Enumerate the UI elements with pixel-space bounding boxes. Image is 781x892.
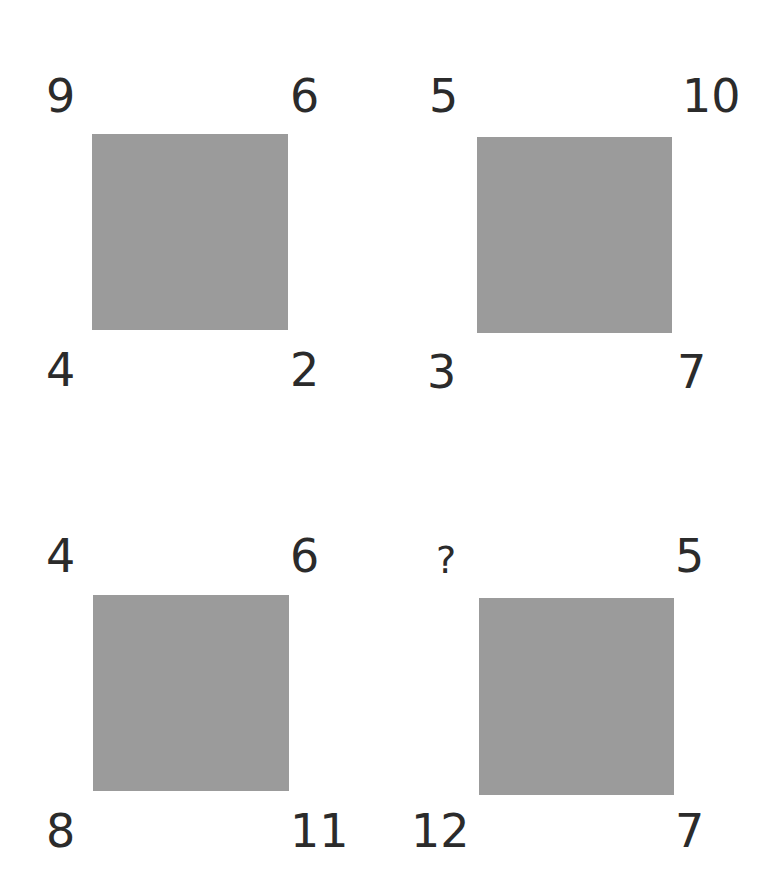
square-3-top-right: 6 (290, 533, 319, 579)
square-1-top-left: 9 (46, 73, 75, 119)
square-2-bottom-left: 3 (427, 349, 456, 395)
puzzle-square-1 (92, 134, 288, 330)
square-3-bottom-right: 11 (290, 808, 349, 854)
puzzle-square-4 (479, 598, 674, 795)
square-2-top-left: 5 (429, 73, 458, 119)
square-4-top-right: 5 (675, 533, 704, 579)
square-1-bottom-right: 2 (290, 347, 319, 393)
square-3-bottom-left: 8 (46, 808, 75, 854)
square-3-top-left: 4 (46, 533, 75, 579)
square-2-bottom-right: 7 (677, 349, 706, 395)
square-2-top-right: 10 (682, 73, 741, 119)
puzzle-square-3 (93, 595, 289, 791)
puzzle-square-2 (477, 137, 672, 333)
square-4-bottom-right: 7 (675, 808, 704, 854)
square-1-bottom-left: 4 (46, 347, 75, 393)
square-1-top-right: 6 (290, 73, 319, 119)
square-4-bottom-left: 12 (411, 808, 470, 854)
square-4-top-left-unknown: ? (436, 541, 456, 579)
